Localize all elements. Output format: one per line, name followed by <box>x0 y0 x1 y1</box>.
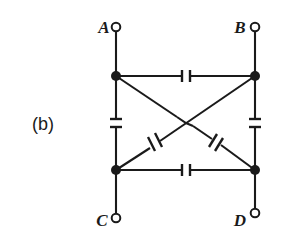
wire-diag-ad-mid <box>193 126 212 139</box>
terminal-circle-d <box>251 209 260 218</box>
terminal-label-c: C <box>96 211 108 230</box>
node-top-right <box>250 71 260 81</box>
cap-top <box>182 70 190 82</box>
circuit-diagram-svg: A B C D (b) <box>0 0 281 245</box>
figure-container: A B C D (b) <box>0 0 281 245</box>
terminal-circle-b <box>251 23 260 32</box>
terminal-circle-c <box>112 214 121 223</box>
terminal-label-d: D <box>233 211 246 230</box>
wire-diag-cb-mid <box>160 76 255 141</box>
wire-diag-cb-lower <box>116 148 150 170</box>
node-top-left <box>111 71 121 81</box>
node-bottom-right <box>250 165 260 175</box>
node-bottom-left <box>111 165 121 175</box>
terminal-label-b: B <box>233 18 245 37</box>
cap-bottom <box>182 164 190 176</box>
cap-diagonal-right <box>209 134 223 151</box>
cap-left <box>110 119 122 127</box>
cap-right <box>249 119 261 127</box>
terminal-circle-a <box>112 23 121 32</box>
cap-diag-right-plate-upper <box>209 134 217 147</box>
wire-diag-ad-upper <box>116 76 177 117</box>
terminal-label-a: A <box>97 18 109 37</box>
wire-diag-ad-lower <box>221 145 255 170</box>
figure-part-label: (b) <box>32 114 54 134</box>
